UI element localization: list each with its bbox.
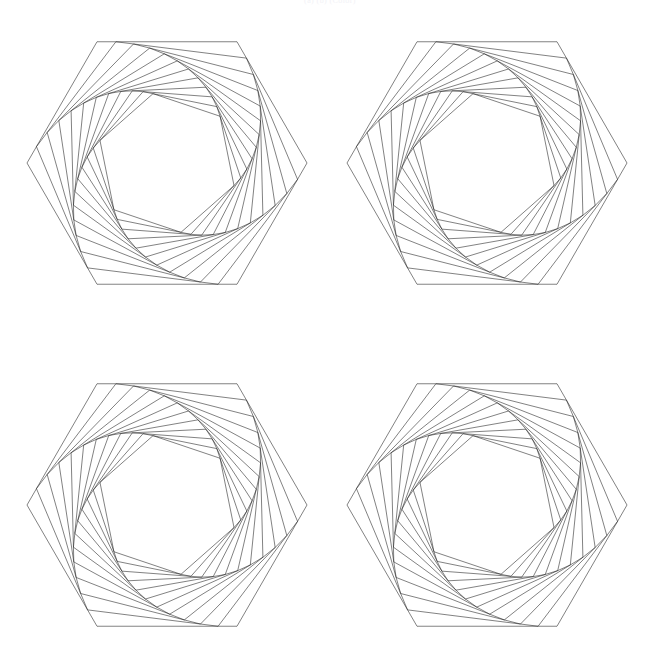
hexagon-ring-9: [407, 433, 567, 577]
hexagon-ring-2: [367, 44, 607, 282]
hexagon-ring-6: [75, 411, 259, 599]
hexagon-ring-11: [100, 94, 234, 233]
panel-bottom-left: [27, 384, 307, 626]
hexagon-ring-6: [395, 69, 579, 257]
hexagon-ring-8: [402, 429, 572, 581]
hexagon-ring-11: [420, 94, 554, 233]
hexagon-ring-9: [87, 91, 247, 235]
hexagon-ring-5: [393, 403, 580, 607]
hexagon-ring-4: [391, 54, 583, 272]
hexagon-ring-5: [393, 61, 580, 265]
hexagon-ring-9: [87, 433, 247, 577]
hexagon-ring-1: [356, 384, 617, 626]
panel-top-right: [347, 42, 627, 284]
hexagon-ring-5: [73, 61, 260, 265]
hexagon-ring-6: [395, 411, 579, 599]
panel-top-left: [27, 42, 307, 284]
hexagon-ring-9: [407, 91, 567, 235]
hexagon-ring-11: [420, 436, 554, 575]
hexagon-spiral-figure: [0, 0, 660, 653]
hexagon-ring-4: [71, 54, 263, 272]
hexagon-ring-10: [93, 434, 241, 577]
hexagon-ring-2: [47, 44, 287, 282]
hexagon-ring-8: [82, 87, 252, 239]
hexagon-ring-2: [367, 386, 607, 624]
hexagon-ring-10: [413, 92, 561, 235]
hexagon-ring-8: [402, 87, 572, 239]
panel-group: [27, 42, 627, 626]
hexagon-ring-3: [59, 48, 275, 278]
panel-bottom-right: [347, 384, 627, 626]
figure-canvas: (a) (b) (Color): [0, 0, 660, 653]
hexagon-ring-5: [73, 403, 260, 607]
hexagon-ring-4: [71, 396, 263, 614]
hexagon-ring-0: [347, 42, 627, 284]
hexagon-ring-1: [36, 384, 297, 626]
hexagon-ring-3: [379, 390, 595, 620]
hexagon-ring-2: [47, 386, 287, 624]
hexagon-ring-6: [75, 69, 259, 257]
hexagon-ring-3: [59, 390, 275, 620]
hexagon-ring-0: [27, 384, 307, 626]
hexagon-ring-0: [27, 42, 307, 284]
hexagon-ring-0: [347, 384, 627, 626]
hexagon-ring-1: [356, 42, 617, 284]
hexagon-ring-3: [379, 48, 595, 278]
hexagon-ring-10: [93, 92, 241, 235]
hexagon-ring-10: [413, 434, 561, 577]
hexagon-ring-4: [391, 396, 583, 614]
hexagon-ring-1: [36, 42, 297, 284]
hexagon-ring-11: [100, 436, 234, 575]
hexagon-ring-8: [82, 429, 252, 581]
